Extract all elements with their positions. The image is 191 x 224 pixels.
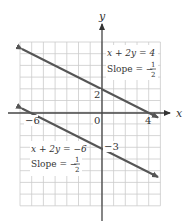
tick-x-0: 0 — [94, 115, 100, 126]
eq1-slope-den: 2 — [151, 71, 155, 79]
annotation-eq1: x + 2y = 4 Slope = − 1 2 — [106, 45, 158, 80]
eq2-slope-num: 1 — [75, 156, 79, 164]
tick-y-2: 2 — [94, 89, 100, 100]
x-axis-label: x — [176, 107, 183, 120]
eq1-text: x + 2y = 4 — [107, 48, 155, 58]
eq2-slope-prefix: Slope = − — [31, 159, 77, 169]
eq2-slope-den: 2 — [75, 166, 79, 174]
tick-x-4: 4 — [145, 115, 151, 126]
eq1-slope-prefix: Slope = − — [107, 64, 153, 74]
tick-y-neg3: −3 — [104, 141, 119, 152]
tick-x-neg6: −6 — [25, 115, 40, 126]
eq2-text: x + 2y = −6 — [31, 144, 87, 154]
eq1-slope-num: 1 — [151, 61, 155, 69]
annotation-eq2: x + 2y = −6 Slope = − 1 2 — [30, 141, 87, 176]
chart: x y −6 0 4 2 −3 x + 2y = 4 Slope = − 1 2… — [0, 0, 191, 224]
y-axis-label: y — [98, 10, 106, 23]
